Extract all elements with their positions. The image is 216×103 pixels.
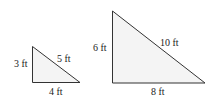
small-horizontal-leg-label: 4 ft	[49, 86, 63, 97]
small-triangle: 3 ft 5 ft 4 ft	[14, 47, 80, 98]
similar-triangles-diagram: 3 ft 5 ft 4 ft 6 ft 10 ft 8 ft	[0, 0, 216, 103]
small-triangle-shape	[33, 47, 81, 83]
small-vertical-leg-label: 3 ft	[14, 58, 28, 69]
large-triangle-shape	[113, 11, 206, 83]
large-horizontal-leg-label: 8 ft	[151, 86, 165, 97]
large-vertical-leg-label: 6 ft	[93, 42, 107, 53]
small-hypotenuse-label: 5 ft	[57, 53, 71, 64]
large-triangle: 6 ft 10 ft 8 ft	[93, 11, 205, 97]
large-hypotenuse-label: 10 ft	[160, 37, 179, 48]
